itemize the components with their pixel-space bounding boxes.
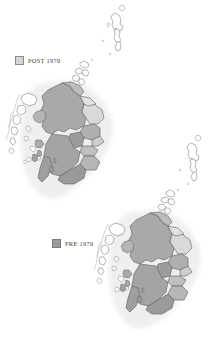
map-pre-1970 [0, 0, 217, 347]
legend-label-post-1970: POST 1970 [28, 56, 61, 65]
legend-swatch-post-1970 [15, 56, 24, 65]
isle-bute-pre [142, 288, 144, 293]
legend-pre-1970: PRE 1970 [52, 239, 94, 248]
legend-label-pre-1970: PRE 1970 [65, 239, 94, 248]
shetland-inset-pre [179, 135, 201, 185]
orkney-inset-pre [158, 189, 179, 214]
figure-root: POST 1970 PRE 1970 [0, 0, 217, 347]
legend-post-1970: POST 1970 [15, 56, 61, 65]
legend-swatch-pre-1970 [52, 239, 61, 248]
